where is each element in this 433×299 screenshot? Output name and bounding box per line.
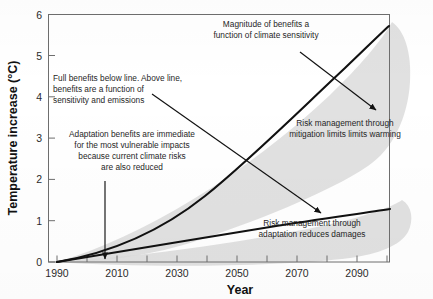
y-tick-3: 3 <box>36 132 42 144</box>
annotation-magnitude: Magnitude of benefits a function of clim… <box>213 19 319 40</box>
x-tick-1990: 1990 <box>45 267 69 279</box>
y-tick-4: 4 <box>36 91 42 103</box>
y-tick-2: 2 <box>36 173 42 185</box>
annotation-adaptation-benefits-line-1: Adaptation benefits are immediate <box>69 129 195 139</box>
y-axis-title: Temperature increase (°C) <box>6 61 20 216</box>
annotation-mitigation-band-line-2: mitigation limits limits warming <box>289 129 401 139</box>
annotation-adaptation-benefits-line-4: are also reduced <box>101 162 163 172</box>
annotation-mitigation-band: Risk management through mitigation limit… <box>289 118 401 139</box>
annotation-adaptation-band-line-1: Risk management through <box>263 218 361 228</box>
annotation-magnitude-line-2: function of climate sensitivity <box>213 30 319 40</box>
x-axis-title: Year <box>227 283 254 297</box>
annotation-adaptation-band-line-2: adaptation reduces damages <box>258 229 365 239</box>
y-tick-6: 6 <box>36 9 42 21</box>
annotation-magnitude-line-1: Magnitude of benefits a <box>223 19 310 29</box>
y-tick-1: 1 <box>36 215 42 227</box>
annotation-full-benefits-line-2: benefits are a function of <box>53 84 145 94</box>
x-tick-2090: 2090 <box>345 267 369 279</box>
annotation-adaptation-benefits-line-2: for the most vulnerable impacts <box>74 140 189 150</box>
climate-risk-management-chart: 0 1 2 3 4 5 6 1990 2010 2030 2050 2070 2… <box>0 0 433 299</box>
x-tick-2050: 2050 <box>225 267 249 279</box>
y-tick-0: 0 <box>36 256 42 268</box>
y-tick-5: 5 <box>36 50 42 62</box>
x-tick-2070: 2070 <box>285 267 309 279</box>
x-tick-2010: 2010 <box>105 267 129 279</box>
annotation-mitigation-band-line-1: Risk management through <box>296 118 394 128</box>
annotation-full-benefits-line-1: Full benefits below line. Above line, <box>53 73 182 83</box>
annotation-adaptation-band: Risk management through adaptation reduc… <box>258 218 365 239</box>
x-tick-2030: 2030 <box>165 267 189 279</box>
annotation-adaptation-benefits-line-3: because current climate risks <box>78 151 185 161</box>
annotation-full-benefits-line-3: sensitivity and emissions <box>53 95 144 105</box>
